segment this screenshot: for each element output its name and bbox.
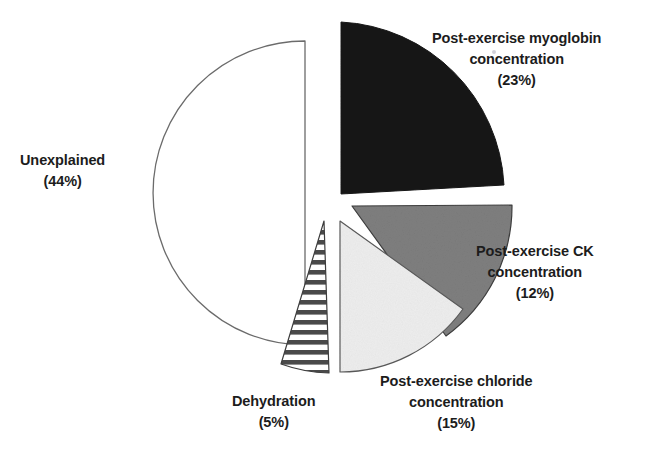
slice-label-myoglobin-line2: concentration bbox=[432, 49, 601, 70]
slice-label-ck-line1: Post-exercise CK bbox=[476, 241, 594, 262]
slice-label-myoglobin-percent: (23%) bbox=[432, 70, 601, 91]
pie-slice-unexplained[interactable] bbox=[153, 41, 305, 345]
slice-label-dehydration: Dehydration (5%) bbox=[232, 391, 316, 433]
scan-speck bbox=[492, 50, 496, 54]
slice-label-unexplained-line1: Unexplained bbox=[20, 150, 105, 171]
slice-label-unexplained: Unexplained (44%) bbox=[20, 150, 105, 192]
slice-label-ck-line2: concentration bbox=[476, 262, 594, 283]
slice-label-dehydration-line1: Dehydration bbox=[232, 391, 316, 412]
slice-label-chloride-line1: Post-exercise chloride bbox=[380, 371, 533, 392]
slice-label-ck: Post-exercise CK concentration (12%) bbox=[476, 241, 594, 304]
slice-label-chloride-percent: (15%) bbox=[380, 413, 533, 434]
pie-chart-figure: Post-exercise myoglobin concentration (2… bbox=[0, 0, 667, 456]
slice-label-unexplained-percent: (44%) bbox=[20, 171, 105, 192]
slice-label-dehydration-percent: (5%) bbox=[232, 412, 316, 433]
slice-label-myoglobin: Post-exercise myoglobin concentration (2… bbox=[432, 28, 601, 91]
slice-label-myoglobin-line1: Post-exercise myoglobin bbox=[432, 28, 601, 49]
slice-label-chloride-line2: concentration bbox=[380, 392, 533, 413]
slice-label-chloride: Post-exercise chloride concentration (15… bbox=[380, 371, 533, 434]
slice-label-ck-percent: (12%) bbox=[476, 283, 594, 304]
